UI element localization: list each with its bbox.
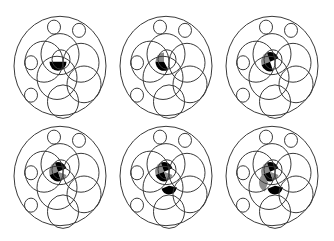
circle-small-top-right — [73, 133, 86, 147]
circle-small-top-left — [48, 130, 61, 144]
venn-diagram-grid — [0, 0, 334, 241]
circle-large-bottom — [48, 85, 79, 118]
circle-small-bottom-left — [25, 88, 38, 102]
circle-small-left — [237, 166, 250, 180]
circle-small-top-left — [260, 130, 273, 144]
circle-small-bottom-left — [25, 198, 38, 212]
circle-small-top-left — [48, 20, 61, 34]
circle-small-left — [25, 166, 38, 180]
circle-large-lower-right — [279, 176, 313, 213]
circle-small-bottom-left — [131, 88, 144, 102]
circle-small-top-right — [179, 23, 192, 37]
circle-small-top-right — [285, 23, 298, 37]
circle-small-left — [237, 56, 250, 70]
circle-small-left — [131, 56, 144, 70]
circle-large-lower-right — [279, 66, 313, 103]
circle-small-bottom-left — [131, 198, 144, 212]
venn-panel-2 — [120, 16, 212, 118]
circle-large-bottom — [260, 85, 291, 118]
venn-panel-5 — [120, 126, 212, 228]
circle-small-bottom-left — [237, 198, 250, 212]
venn-panel-1 — [14, 16, 106, 118]
circle-small-top-right — [179, 133, 192, 147]
circle-large-bottom — [154, 85, 185, 118]
venn-panel-3 — [226, 16, 318, 118]
circle-small-top-left — [154, 20, 167, 34]
circle-small-left — [25, 56, 38, 70]
circle-large-bottom — [154, 195, 185, 228]
circle-small-top-left — [154, 130, 167, 144]
circle-small-bottom-left — [237, 88, 250, 102]
circle-large-lower-right — [173, 66, 207, 103]
circle-large-lower-right — [67, 176, 101, 213]
venn-panel-4 — [14, 126, 106, 228]
circle-small-top-right — [73, 23, 86, 37]
circle-large-lower-right — [173, 176, 207, 213]
venn-panel-6 — [226, 126, 318, 228]
circle-small-top-right — [285, 133, 298, 147]
circle-large-bottom — [48, 195, 79, 228]
circle-small-top-left — [260, 20, 273, 34]
circle-large-bottom — [260, 195, 291, 228]
circle-small-left — [131, 166, 144, 180]
diagram-canvas — [0, 0, 334, 241]
circle-large-lower-right — [67, 66, 101, 103]
